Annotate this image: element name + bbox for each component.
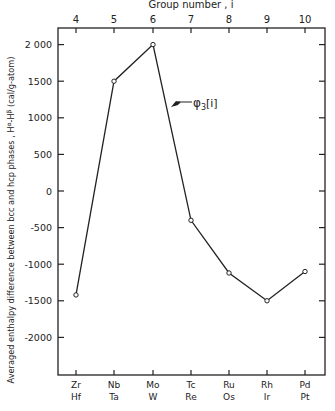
element-label: Tc (186, 380, 196, 390)
data-point (189, 218, 193, 222)
y-tick-label: 2 000 (25, 39, 52, 50)
phi3-annotation: φ3[i] (171, 96, 218, 112)
y-axis-title: Averaged enthalpy difference between bcc… (5, 57, 16, 384)
plot-frame (58, 28, 325, 375)
element-label: Nb (108, 380, 121, 390)
element-label: Ta (108, 392, 119, 402)
element-label: Ru (223, 380, 235, 390)
top-tick-label: 8 (226, 14, 232, 25)
y-tick-label: 0 (46, 186, 52, 197)
data-markers (74, 42, 307, 303)
y-axis: 2 000150010005000-500-1000-1500-2000 (24, 39, 325, 343)
top-tick-label: 6 (150, 14, 156, 25)
y-tick-label: -1500 (24, 295, 52, 306)
top-tick-label: 4 (73, 14, 79, 25)
chart: 45678910 ZrHfNbTaMoWTcReRuOsRhIrPdPt 2 0… (0, 0, 335, 411)
element-label: Re (185, 392, 197, 402)
y-tick-label: -1000 (24, 259, 52, 270)
y-tick-label: -2000 (24, 332, 52, 343)
data-point (303, 269, 307, 273)
element-label: Ir (264, 392, 271, 402)
element-label: Mo (146, 380, 160, 390)
top-axis: 45678910 (73, 14, 312, 33)
top-tick-label: 9 (264, 14, 270, 25)
y-tick-label: 500 (34, 149, 52, 160)
y-tick-label: 1000 (28, 112, 52, 123)
top-tick-label: 5 (111, 14, 117, 25)
top-tick-label: 10 (299, 14, 312, 25)
data-point (227, 271, 231, 275)
y-tick-label: 1500 (28, 76, 52, 87)
data-point (74, 293, 78, 297)
element-label: Hf (71, 392, 82, 402)
y-tick-label: -500 (30, 222, 52, 233)
series-line (76, 45, 305, 301)
top-axis-title: Group number , i (149, 0, 234, 10)
element-label: W (149, 392, 158, 402)
top-tick-label: 7 (188, 14, 194, 25)
element-label: Rh (261, 380, 273, 390)
data-point (112, 79, 116, 83)
data-point (265, 299, 269, 303)
svg-text:φ3[i]: φ3[i] (193, 96, 218, 112)
data-point (151, 42, 155, 46)
element-label: Zr (71, 380, 81, 390)
element-label: Pt (301, 392, 310, 402)
element-label: Os (223, 392, 235, 402)
element-label: Pd (299, 380, 310, 390)
